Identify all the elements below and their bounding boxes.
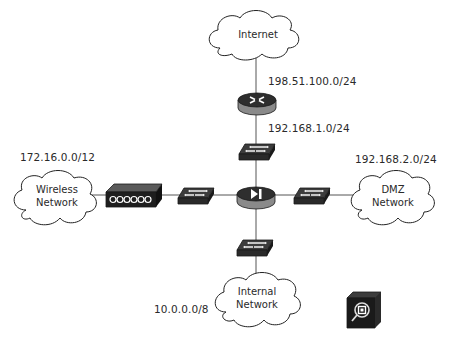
switch-right-icon bbox=[294, 188, 330, 204]
switch-top-icon bbox=[239, 144, 275, 160]
cloud-label-line: Wireless bbox=[34, 183, 80, 196]
connection-lines bbox=[52, 58, 356, 292]
switch-bottom-icon bbox=[237, 240, 273, 256]
network-diagram: Internet Wireless Network DMZ Network In… bbox=[0, 0, 452, 350]
dmz-cloud-label: DMZ Network bbox=[370, 183, 416, 209]
dmz-subnet-label: 192.168.2.0/24 bbox=[355, 153, 437, 165]
cloud-label-line: Network bbox=[234, 298, 280, 311]
ids-inspection-icon bbox=[347, 292, 381, 328]
cloud-label-line: Internet bbox=[238, 29, 278, 40]
internet-link-subnet-label: 198.51.100.0/24 bbox=[268, 75, 357, 87]
router-icon bbox=[238, 93, 276, 115]
internal-subnet-label: 10.0.0.0/8 bbox=[154, 303, 209, 315]
router-link-subnet-label: 192.168.1.0/24 bbox=[268, 122, 350, 134]
wireless-cloud-label: Wireless Network bbox=[34, 183, 80, 209]
cloud-label-line: Network bbox=[370, 196, 416, 209]
cloud-label-line: Internal bbox=[234, 285, 280, 298]
access-point-icon bbox=[106, 184, 162, 207]
wireless-subnet-label: 172.16.0.0/12 bbox=[20, 151, 95, 163]
internet-cloud-label: Internet bbox=[236, 28, 280, 41]
internal-cloud-label: Internal Network bbox=[234, 285, 280, 311]
cloud-label-line: DMZ bbox=[370, 183, 416, 196]
cloud-label-line: Network bbox=[34, 196, 80, 209]
switch-left-icon bbox=[178, 188, 214, 204]
firewall-icon bbox=[237, 187, 275, 209]
